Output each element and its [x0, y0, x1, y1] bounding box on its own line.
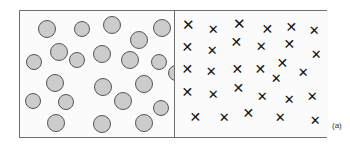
- particle-cross-icon: ✕: [257, 90, 268, 103]
- particle-cross-icon: ✕: [189, 110, 201, 124]
- particle-cross-icon: ✕: [307, 90, 318, 103]
- particle-circle: [121, 51, 139, 69]
- particle-cross-icon: ✕: [233, 17, 246, 32]
- particle-circle: [130, 31, 148, 49]
- particle-cross-icon: ✕: [231, 62, 243, 76]
- particle-circle: [103, 16, 121, 34]
- particle-circle: [50, 43, 68, 61]
- particle-cross-icon: ✕: [298, 66, 309, 79]
- particle-cross-icon: ✕: [311, 48, 322, 61]
- particle-cross-icon: ✕: [284, 93, 295, 106]
- particle-cross-icon: ✕: [283, 37, 295, 51]
- particle-circle: [153, 100, 169, 116]
- particle-cross-icon: ✕: [232, 81, 244, 95]
- particle-cross-icon: ✕: [182, 18, 195, 33]
- particle-circle: [135, 114, 153, 132]
- particle-cross-icon: ✕: [285, 20, 297, 34]
- particle-cross-icon: ✕: [309, 24, 320, 37]
- particle-circle: [47, 114, 65, 132]
- particle-circle: [74, 21, 90, 37]
- left-panel-circles: [20, 11, 174, 137]
- particle-cross-icon: ✕: [276, 56, 288, 70]
- particle-cross-icon: ✕: [181, 85, 193, 99]
- particle-cross-icon: ✕: [207, 44, 218, 57]
- particle-cross-icon: ✕: [230, 35, 242, 49]
- particle-circle: [38, 20, 56, 38]
- figure-root: ✕✕✕✕✕✕✕✕✕✕✕✕✕✕✕✕✕✕✕✕✕✕✕✕✕✕✕✕✕✕ (a): [0, 0, 350, 150]
- particle-circle: [46, 74, 64, 92]
- particle-circle: [25, 93, 41, 109]
- particle-circle: [26, 54, 42, 70]
- particle-cross-icon: ✕: [261, 22, 273, 36]
- particle-cross-icon: ✕: [310, 114, 321, 127]
- particle-circle: [93, 115, 111, 133]
- particle-cross-icon: ✕: [256, 40, 267, 53]
- particle-circle: [114, 92, 132, 110]
- particle-cross-icon: ✕: [181, 62, 193, 76]
- particle-circle: [58, 94, 74, 110]
- particle-circle: [94, 78, 112, 96]
- particle-cross-icon: ✕: [242, 106, 254, 120]
- panel-frame: ✕✕✕✕✕✕✕✕✕✕✕✕✕✕✕✕✕✕✕✕✕✕✕✕✕✕✕✕✕✕: [19, 10, 327, 138]
- particle-cross-icon: ✕: [254, 62, 266, 76]
- particle-circle: [153, 19, 171, 37]
- particle-circle: [135, 75, 153, 93]
- particle-circle: [69, 52, 85, 68]
- particle-cross-icon: ✕: [206, 65, 217, 78]
- particle-cross-icon: ✕: [208, 23, 219, 36]
- particle-cross-icon: ✕: [208, 88, 219, 101]
- particle-circle: [93, 45, 111, 63]
- right-panel-crosses: ✕✕✕✕✕✕✕✕✕✕✕✕✕✕✕✕✕✕✕✕✕✕✕✕✕✕✕✕✕✕: [174, 11, 328, 137]
- particle-circle: [151, 54, 167, 70]
- particle-cross-icon: ✕: [181, 40, 193, 54]
- particle-cross-icon: ✕: [275, 111, 286, 124]
- figure-label: (a): [332, 121, 342, 130]
- particle-cross-icon: ✕: [271, 72, 282, 85]
- particle-cross-icon: ✕: [219, 111, 230, 124]
